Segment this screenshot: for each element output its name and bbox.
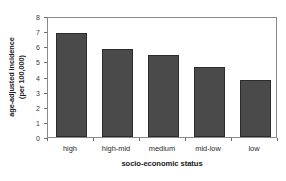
x-axis-title: socio-economic status: [47, 159, 277, 168]
x-axis-tick-label: low: [248, 144, 259, 153]
y-axis-title-line1: age-adjusted incidence: [7, 37, 17, 117]
x-axis-tick-mark: [277, 138, 278, 141]
bar-series: [48, 18, 276, 137]
y-axis-tick-label: 3: [24, 89, 40, 96]
bar: [194, 67, 225, 137]
x-axis-tick-label: high-mid: [102, 144, 130, 153]
bar-chart-figure: age-adjusted incidence (per 100,000) 012…: [0, 0, 286, 181]
y-axis-tick-label: 1: [24, 119, 40, 126]
x-axis-tick-label: mid-low: [195, 144, 220, 153]
x-axis-tick-mark: [93, 138, 94, 141]
bar: [148, 55, 179, 137]
plot-area: [47, 17, 277, 138]
bar: [240, 80, 271, 137]
y-axis-tick-label: 0: [24, 135, 40, 142]
x-axis-tick-mark: [185, 138, 186, 141]
y-axis-tick-label: 4: [24, 74, 40, 81]
x-axis-tick-mark: [47, 138, 48, 141]
bar: [102, 49, 133, 137]
y-axis-tick-label: 2: [24, 104, 40, 111]
bar: [56, 33, 87, 137]
x-axis-tick-label: high: [63, 144, 77, 153]
y-axis-tick-label: 7: [24, 29, 40, 36]
y-axis-tick-label: 6: [24, 44, 40, 51]
x-axis-tick-mark: [139, 138, 140, 141]
y-axis-tick-label: 8: [24, 14, 40, 21]
x-axis-tick-mark: [231, 138, 232, 141]
y-axis-tick-label: 5: [24, 59, 40, 66]
x-axis-tick-label: medium: [149, 144, 175, 153]
